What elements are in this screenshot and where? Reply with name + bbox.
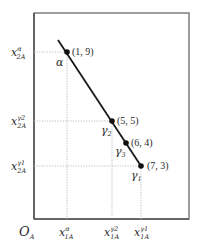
allocation-line <box>58 40 141 166</box>
coord-label-gamma3: (6, 4) <box>131 137 153 149</box>
point-gamma3 <box>123 140 129 146</box>
x-label-gamma2: xγ21A <box>104 225 119 241</box>
edgeworth-diagram: (1, 9) (5, 5) (6, 4) (7, 3) α γ2 γ3 γ1 x… <box>0 0 199 248</box>
coord-label-alpha: (1, 9) <box>72 46 94 58</box>
x-label-alpha: xα1A <box>59 225 74 241</box>
y-label-gamma2: xγ22A <box>11 114 26 130</box>
coord-label-gamma2: (5, 5) <box>117 115 139 127</box>
greek-label-alpha: α <box>56 56 64 69</box>
greek-label-gamma1: γ1 <box>131 169 142 183</box>
coord-label-gamma1: (7, 3) <box>147 160 169 172</box>
point-gamma1 <box>138 163 144 169</box>
greek-label-gamma3: γ3 <box>115 145 126 159</box>
y-label-gamma1: xγ12A <box>11 159 26 175</box>
point-alpha <box>64 49 70 55</box>
greek-label-gamma2: γ2 <box>101 124 112 138</box>
y-label-alpha: xα2A <box>11 45 26 61</box>
guide-lines <box>34 52 141 219</box>
origin-label: OA <box>19 224 35 241</box>
x-label-gamma1: xγ11A <box>134 225 149 241</box>
box-frame <box>34 13 189 219</box>
point-gamma2 <box>109 118 115 124</box>
